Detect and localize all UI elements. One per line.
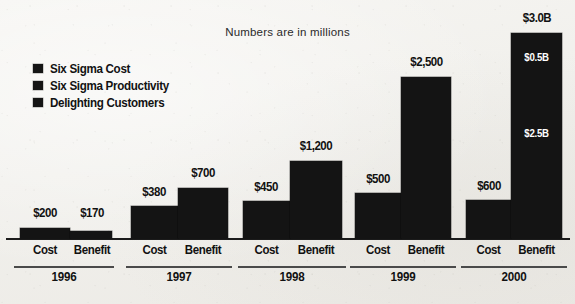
bar-group-2000: $0.5B $2.5B $600 $3.0B Cost Benefit 2000 — [0, 0, 118, 304]
bar-value-benefit-1997: $700 — [180, 166, 226, 180]
group-rule-1999 — [350, 266, 456, 268]
axis-label-benefit-1997: Benefit — [180, 243, 226, 257]
bar-benefit-1998 — [290, 161, 342, 238]
bar-benefit-1997 — [178, 188, 228, 238]
bar-benefit-1999 — [401, 77, 451, 238]
axis-label-benefit-1998: Benefit — [292, 243, 340, 257]
chart-container: Numbers are in millions Six Sigma Cost S… — [0, 0, 575, 304]
group-rule-1998 — [238, 266, 346, 268]
bar-value-benefit-1999: $2,500 — [401, 55, 452, 69]
group-rule-1997 — [126, 266, 232, 268]
group-year-1999: 1999 — [354, 270, 453, 284]
bar-segment-label-lower-2000: $2.5B — [513, 127, 560, 139]
bar-cost-2000 — [466, 200, 511, 238]
group-year-2000: 2000 — [465, 270, 564, 284]
plot-area: $200 $170 Cost Benefit 1996 $380 $700 Co… — [0, 0, 575, 304]
bar-value-benefit-2000: $3.0B — [511, 11, 563, 25]
group-rule-2000 — [461, 266, 567, 268]
bar-value-cost-1997: $380 — [130, 185, 178, 199]
group-year-1998: 1998 — [242, 270, 342, 284]
axis-label-cost-1998: Cost — [245, 243, 288, 257]
group-year-1997: 1997 — [130, 270, 229, 284]
axis-label-cost-2000: Cost — [468, 243, 509, 257]
bar-cost-1997 — [131, 206, 178, 238]
bar-value-cost-2000: $600 — [465, 179, 513, 193]
axis-label-benefit-1999: Benefit — [403, 243, 449, 257]
bar-value-cost-1999: $500 — [354, 172, 402, 186]
bar-cost-1998 — [243, 201, 290, 238]
axis-label-cost-1997: Cost — [133, 243, 176, 257]
bar-segment-label-upper-2000: $0.5B — [513, 51, 560, 63]
bar-cost-1999 — [355, 193, 401, 238]
bar-value-cost-1998: $450 — [242, 180, 290, 194]
axis-label-cost-1999: Cost — [357, 243, 399, 257]
axis-label-benefit-2000: Benefit — [513, 243, 560, 257]
bar-value-benefit-1998: $1,200 — [290, 139, 342, 153]
